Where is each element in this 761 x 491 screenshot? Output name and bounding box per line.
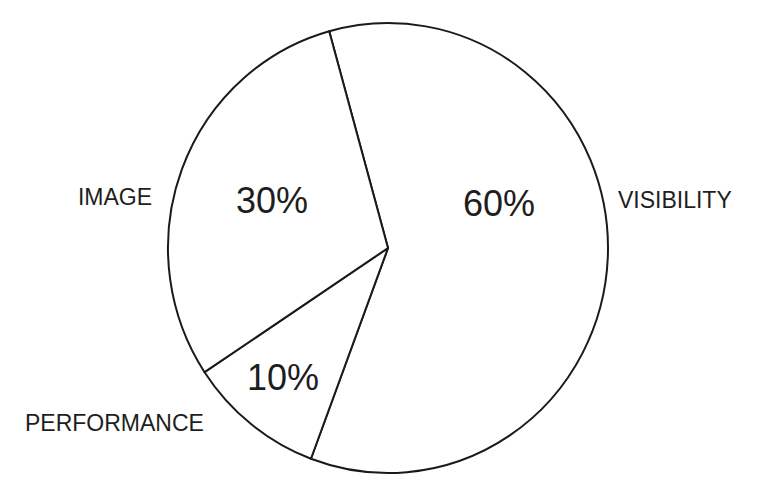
category-label-image: IMAGE — [78, 184, 152, 210]
pie-slices — [168, 23, 608, 473]
category-label-performance: PERFORMANCE — [25, 410, 204, 436]
slice-value-visibility: 60% — [463, 183, 535, 224]
slice-value-performance: 10% — [247, 357, 319, 398]
category-label-visibility: VISIBILITY — [618, 187, 732, 213]
slice-value-image: 30% — [236, 180, 308, 221]
pie-chart: 60% 30% 10% VISIBILITY IMAGE PERFORMANCE — [0, 0, 761, 491]
